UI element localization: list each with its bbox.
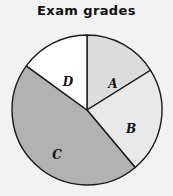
- pie-chart-figure: Exam grades ABCD: [0, 0, 173, 196]
- pie-slice-label-a: A: [107, 77, 117, 91]
- chart-title: Exam grades: [0, 3, 173, 18]
- pie-slice-label-c: C: [52, 148, 62, 162]
- pie-chart-canvas: ABCD: [0, 22, 173, 196]
- pie-slice-group: [12, 35, 162, 185]
- pie-slice-label-b: B: [125, 122, 136, 136]
- pie-slice-label-d: D: [62, 75, 74, 89]
